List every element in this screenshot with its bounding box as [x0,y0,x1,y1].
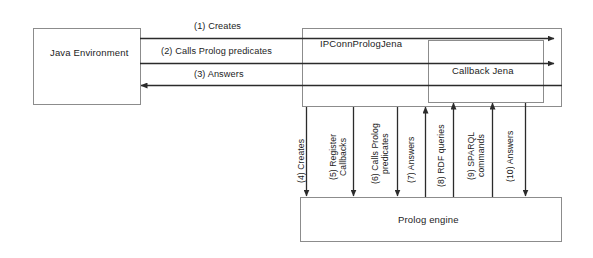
message-label-9: (9) SPARQL commands [466,120,490,192]
message-label-5: (5) Register Callbacks [328,122,352,192]
java-environment-label: Java Environment [50,48,128,58]
architecture-diagram: Java Environment IPConnPrologJena Callba… [0,0,593,258]
message-label-8: (8) RDF queries [436,120,456,192]
message-label-7: (7) Answers [406,128,426,192]
java-environment-box [34,29,141,105]
callback-jena-label: Callback Jena [452,66,514,76]
prolog-engine-label: Prolog engine [398,215,459,225]
message-label-6: (6) Calls Prolog predicates [370,116,394,192]
message-label-3: (3) Answers [194,70,244,79]
ipconnprologjena-label: IPConnPrologJena [320,39,402,49]
message-label-4: (4) Creates [296,130,316,192]
message-label-2: (2) Calls Prolog predicates [161,47,272,56]
message-label-1: (1) Creates [194,22,241,31]
message-label-10: (10) Answers [505,120,525,192]
